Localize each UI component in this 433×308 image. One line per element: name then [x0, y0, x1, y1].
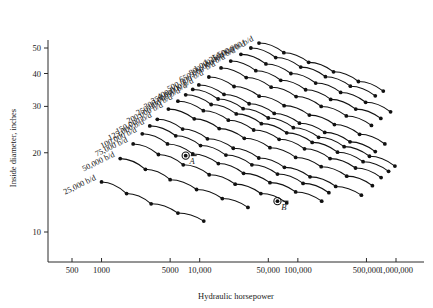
annotation-label: A — [189, 156, 196, 166]
data-point — [226, 118, 230, 122]
data-point — [167, 107, 171, 111]
y-axis-title: Inside diameter, inches — [8, 109, 18, 187]
data-point — [364, 100, 368, 104]
series-curve — [102, 182, 204, 221]
data-point — [274, 56, 278, 60]
y-axis: 1020304050 — [33, 40, 49, 262]
data-point — [241, 107, 245, 111]
data-point — [229, 59, 233, 63]
data-point — [220, 197, 224, 201]
data-point — [303, 147, 307, 151]
data-point — [242, 136, 246, 140]
data-point — [174, 134, 178, 138]
data-point — [319, 165, 323, 169]
data-point — [125, 192, 129, 196]
data-point — [195, 188, 199, 192]
data-point — [224, 153, 228, 157]
data-point — [319, 105, 323, 109]
data-point — [379, 176, 383, 180]
data-point — [233, 182, 237, 186]
data-point — [149, 202, 153, 206]
data-point — [219, 66, 223, 70]
data-point — [239, 52, 243, 56]
data-point — [201, 109, 205, 113]
data-point — [148, 124, 152, 128]
data-point — [257, 94, 261, 98]
data-point — [289, 72, 293, 76]
data-point — [294, 190, 298, 194]
data-point — [361, 160, 365, 164]
data-point — [354, 107, 358, 111]
data-point — [234, 112, 238, 116]
y-tick-label: 50 — [33, 43, 42, 53]
data-point — [250, 163, 254, 167]
data-point — [276, 172, 280, 176]
data-point — [393, 164, 397, 168]
y-tick-label: 20 — [33, 148, 42, 158]
data-point — [266, 116, 270, 120]
data-point — [328, 157, 332, 161]
data-point — [283, 165, 287, 169]
data-point — [379, 117, 383, 121]
data-point — [368, 154, 372, 158]
data-point — [381, 89, 385, 93]
data-point — [264, 62, 268, 66]
data-point — [354, 166, 358, 170]
x-tick-label: 500,000 — [353, 265, 381, 275]
data-point — [168, 178, 172, 182]
data-point — [389, 110, 393, 114]
curve-label: 1,500,000 b/d — [210, 34, 255, 62]
x-tick-label: 50,000 — [257, 265, 280, 275]
data-point — [257, 156, 261, 160]
curve-label: 25,000 b/d — [62, 173, 97, 196]
x-tick-label: 100,000 — [284, 265, 312, 275]
data-point — [192, 117, 196, 121]
data-point — [339, 91, 343, 95]
data-point — [140, 132, 144, 136]
data-point — [371, 184, 375, 188]
data-point — [301, 181, 305, 185]
data-point — [304, 88, 308, 92]
data-point — [222, 93, 226, 97]
data-point — [334, 185, 338, 189]
x-tick-label: 10,000 — [188, 265, 211, 275]
data-point — [348, 84, 352, 88]
data-point — [231, 146, 235, 150]
data-point — [317, 135, 321, 139]
data-point — [181, 163, 185, 167]
data-point — [216, 97, 220, 101]
data-point — [310, 140, 314, 144]
data-point — [307, 113, 311, 117]
data-point — [166, 142, 170, 146]
data-point — [268, 181, 272, 185]
series-curve — [251, 48, 375, 96]
annotation-label: B — [281, 202, 286, 212]
x-tick-label: 500 — [66, 265, 79, 275]
data-point — [272, 112, 276, 116]
data-point — [370, 124, 374, 128]
data-point — [285, 131, 289, 135]
data-point — [232, 85, 236, 89]
data-point — [314, 81, 318, 85]
data-point — [298, 121, 302, 125]
data-point — [308, 175, 312, 179]
y-tick-label: 30 — [33, 101, 42, 111]
data-point — [299, 65, 303, 69]
curves-layer — [100, 41, 397, 223]
x-axis-title: Hydraulic horsepower — [198, 291, 274, 301]
data-point — [324, 75, 328, 79]
data-point — [206, 137, 210, 141]
y-tick-label: 40 — [33, 69, 42, 79]
data-point — [244, 76, 248, 80]
x-tick-label: 1000 — [93, 265, 110, 275]
x-tick-label: 1,000,000 — [379, 265, 413, 275]
data-point — [357, 80, 361, 84]
data-point — [257, 41, 261, 45]
data-point — [373, 94, 377, 98]
data-point — [307, 60, 311, 64]
data-point — [277, 137, 281, 141]
data-point — [249, 46, 253, 50]
data-point — [242, 171, 246, 175]
data-point — [291, 126, 295, 130]
data-point — [359, 193, 363, 197]
